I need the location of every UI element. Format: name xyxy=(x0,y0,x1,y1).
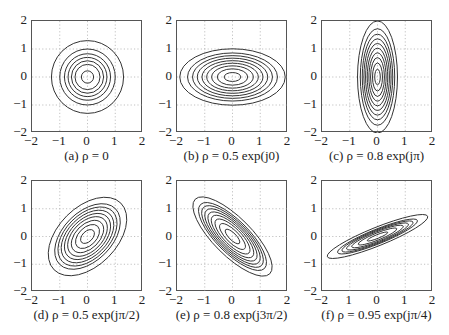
plot-area xyxy=(321,180,432,291)
y-tick-label: 0 xyxy=(150,69,172,82)
x-tick-label: 1 xyxy=(102,134,126,147)
x-tick-label: −1 xyxy=(192,293,216,306)
x-tick-label: 0 xyxy=(75,293,99,306)
x-tick-label: −2 xyxy=(309,293,333,306)
plot-area xyxy=(31,180,142,291)
x-tick-label: 0 xyxy=(75,134,99,147)
subplot-caption: (c) ρ = 0.8 exp(jπ) xyxy=(301,149,449,163)
y-tick-label: 0 xyxy=(5,69,27,82)
x-tick-label: 0 xyxy=(365,134,389,147)
x-tick-label: −1 xyxy=(47,293,71,306)
subplot-caption: (e) ρ = 0.8 exp(j3π/2) xyxy=(156,308,307,322)
x-tick-label: 1 xyxy=(337,293,361,306)
y-tick-label: 2 xyxy=(295,13,317,26)
y-tick-label: 2 xyxy=(5,13,27,26)
y-tick-label: 1 xyxy=(5,201,27,214)
y-tick-label: −1 xyxy=(5,256,27,269)
y-tick-label: 0 xyxy=(295,229,317,242)
x-tick-label: −2 xyxy=(19,134,43,147)
subplot-caption: (a) ρ = 0 xyxy=(11,149,162,163)
x-tick-label: 2 xyxy=(420,293,444,306)
y-tick-label: 1 xyxy=(295,41,317,54)
plot-area xyxy=(321,20,432,132)
x-tick-label: 0 xyxy=(365,293,389,306)
plot-area xyxy=(176,180,287,291)
x-tick-label: −2 xyxy=(309,134,333,147)
y-tick-label: 0 xyxy=(5,229,27,242)
x-tick-label: 0 xyxy=(220,293,244,306)
x-tick-label: 2 xyxy=(420,134,444,147)
x-tick-label: 1 xyxy=(247,134,271,147)
plot-area xyxy=(31,20,142,132)
x-tick-label: −2 xyxy=(19,293,43,306)
subplot-caption: (f) ρ = 0.95 exp(jπ/4) xyxy=(301,308,449,322)
y-tick-label: −1 xyxy=(150,97,172,110)
y-tick-label: 1 xyxy=(150,201,172,214)
x-tick-label: −2 xyxy=(164,134,188,147)
y-tick-label: 2 xyxy=(5,173,27,186)
y-tick-label: −1 xyxy=(150,256,172,269)
x-tick-label: 1 xyxy=(392,134,416,147)
y-tick-label: −1 xyxy=(5,97,27,110)
y-tick-label: 1 xyxy=(295,201,317,214)
x-tick-label: −2 xyxy=(164,293,188,306)
plot-area xyxy=(176,20,287,132)
y-tick-label: 2 xyxy=(295,173,317,186)
subplot-caption: (b) ρ = 0.5 exp(j0) xyxy=(156,149,307,163)
y-tick-label: −1 xyxy=(295,97,317,110)
x-tick-label: −1 xyxy=(47,134,71,147)
y-tick-label: 0 xyxy=(295,69,317,82)
x-tick-label: 0 xyxy=(220,134,244,147)
y-tick-label: −1 xyxy=(295,256,317,269)
x-tick-label: 1 xyxy=(102,293,126,306)
y-tick-label: 2 xyxy=(150,173,172,186)
x-tick-label: 1 xyxy=(392,293,416,306)
subplot-caption: (d) ρ = 0.5 exp(jπ/2) xyxy=(11,308,162,322)
y-tick-label: 2 xyxy=(150,13,172,26)
x-tick-label: −1 xyxy=(337,134,361,147)
y-tick-label: 1 xyxy=(150,41,172,54)
y-tick-label: 1 xyxy=(5,41,27,54)
y-tick-label: 0 xyxy=(150,229,172,242)
x-tick-label: 1 xyxy=(247,293,271,306)
x-tick-label: −1 xyxy=(192,134,216,147)
